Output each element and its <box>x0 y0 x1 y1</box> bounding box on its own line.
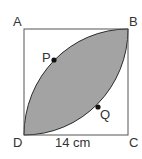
point-label-q: Q <box>100 107 110 122</box>
geometry-figure: A B C D P Q 14 cm <box>0 0 142 159</box>
point-p-dot <box>51 57 56 62</box>
side-length-label: 14 cm <box>55 135 90 150</box>
point-label-p: P <box>42 50 51 65</box>
vertex-label-b: B <box>129 14 138 29</box>
vertex-label-d: D <box>13 135 22 150</box>
vertex-label-a: A <box>13 14 22 29</box>
shaded-lens-region <box>24 29 128 135</box>
vertex-label-c: C <box>129 135 138 150</box>
